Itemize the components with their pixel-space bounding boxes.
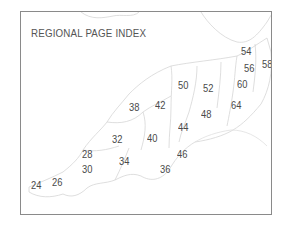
page-label-34[interactable]: 34: [119, 156, 129, 167]
page-label-48[interactable]: 48: [201, 109, 211, 120]
page-label-32[interactable]: 32: [112, 134, 122, 145]
page-label-50[interactable]: 50: [178, 80, 188, 91]
page-label-24[interactable]: 24: [31, 180, 41, 191]
page-label-30[interactable]: 30: [82, 164, 92, 175]
page-label-58[interactable]: 58: [262, 59, 272, 70]
page-label-56[interactable]: 56: [244, 63, 254, 74]
page-label-42[interactable]: 42: [155, 100, 165, 111]
page-label-36[interactable]: 36: [160, 164, 170, 175]
regional-page-index-map: REGIONAL PAGE INDEX 24 26 28 30 32 34 36…: [20, 11, 272, 215]
page-label-46[interactable]: 46: [177, 149, 187, 160]
map-title: REGIONAL PAGE INDEX: [31, 27, 146, 39]
page-label-64[interactable]: 64: [231, 100, 241, 111]
page-label-38[interactable]: 38: [129, 102, 139, 113]
page-label-40[interactable]: 40: [147, 133, 157, 144]
page-label-54[interactable]: 54: [241, 46, 251, 57]
page-label-44[interactable]: 44: [178, 122, 188, 133]
page-label-52[interactable]: 52: [203, 83, 213, 94]
page-label-26[interactable]: 26: [52, 177, 62, 188]
page-label-60[interactable]: 60: [237, 79, 247, 90]
page-label-28[interactable]: 28: [82, 149, 92, 160]
